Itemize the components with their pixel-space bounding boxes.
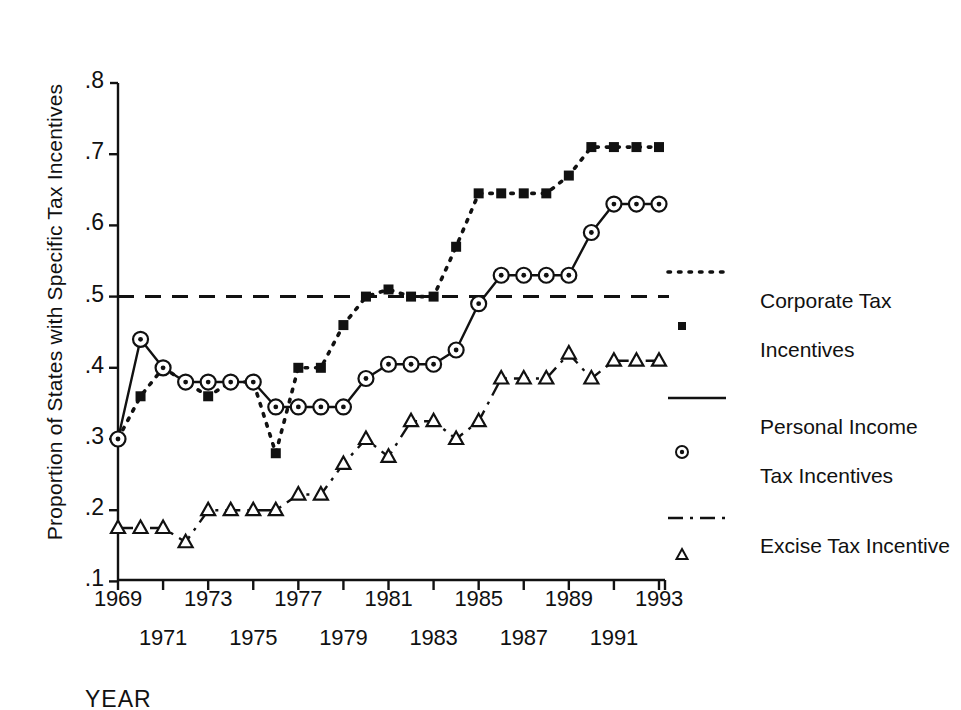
legend-label-1-line2: Incentives bbox=[760, 338, 855, 362]
data-point-circle-center bbox=[431, 362, 436, 367]
data-point-triangle bbox=[427, 414, 441, 427]
x-axis-tick-label: 1983 bbox=[394, 625, 474, 651]
y-axis-tick-label: .7 bbox=[56, 138, 104, 165]
data-point-square bbox=[631, 142, 641, 152]
data-point-square bbox=[654, 142, 664, 152]
data-point-circle-center bbox=[454, 348, 459, 353]
data-point-triangle bbox=[562, 346, 576, 359]
data-point-triangle bbox=[584, 371, 598, 384]
legend-label-3: Excise Tax Incentive bbox=[760, 534, 950, 558]
data-point-square bbox=[203, 391, 213, 401]
x-axis-tick-label: 1975 bbox=[213, 625, 293, 651]
data-point-circle-center bbox=[116, 437, 121, 442]
data-point-circle-center bbox=[296, 405, 301, 410]
data-point-circle-center bbox=[521, 273, 526, 278]
series-3 bbox=[111, 346, 666, 547]
data-point-triangle bbox=[201, 503, 215, 516]
data-point-circle-center bbox=[566, 273, 571, 278]
data-point-triangle bbox=[336, 456, 350, 469]
x-axis-tick-label: 1989 bbox=[529, 586, 609, 612]
x-axis-tick-label: 1993 bbox=[619, 586, 699, 612]
data-point-circle-center bbox=[273, 405, 278, 410]
data-point-triangle bbox=[134, 521, 148, 534]
data-point-square bbox=[271, 448, 281, 458]
x-axis-tick-label: 1977 bbox=[258, 586, 338, 612]
data-point-square bbox=[361, 292, 371, 302]
data-point-square bbox=[293, 363, 303, 373]
data-point-triangle bbox=[517, 371, 531, 384]
data-point-circle-center bbox=[183, 380, 188, 385]
data-point-square bbox=[429, 292, 439, 302]
data-point-triangle bbox=[449, 432, 463, 445]
y-axis-tick-label: .5 bbox=[56, 281, 104, 308]
data-point-circle-center bbox=[409, 362, 414, 367]
x-axis-tick-label: 1981 bbox=[349, 586, 429, 612]
x-axis-tick-label: 1969 bbox=[78, 586, 158, 612]
series-line bbox=[118, 204, 659, 439]
chart-figure: Proportion of States with Specific Tax I… bbox=[0, 0, 961, 710]
data-point-circle-center bbox=[612, 202, 617, 207]
x-axis-tick-label: 1971 bbox=[123, 625, 203, 651]
data-point-circle-center bbox=[499, 273, 504, 278]
data-point-triangle bbox=[291, 487, 305, 500]
data-point-circle-center bbox=[138, 337, 143, 342]
data-point-circle-center bbox=[161, 365, 166, 370]
data-point-square bbox=[338, 320, 348, 330]
data-point-triangle bbox=[652, 353, 666, 366]
data-point-square bbox=[384, 284, 394, 294]
data-point-circle-center bbox=[476, 301, 481, 306]
x-axis-title: YEAR bbox=[85, 686, 152, 710]
data-point-square bbox=[316, 363, 326, 373]
data-point-square bbox=[451, 242, 461, 252]
y-axis-tick-label: .8 bbox=[56, 67, 104, 94]
y-axis-tick-label: .3 bbox=[56, 423, 104, 450]
data-point-circle-center bbox=[206, 380, 211, 385]
y-axis-tick-label: .4 bbox=[56, 352, 104, 379]
data-point-triangle bbox=[629, 353, 643, 366]
data-point-triangle bbox=[382, 449, 396, 462]
data-point-square bbox=[474, 188, 484, 198]
data-point-triangle bbox=[494, 371, 508, 384]
series-2 bbox=[111, 197, 667, 447]
data-point-square bbox=[406, 292, 416, 302]
data-point-square bbox=[136, 391, 146, 401]
data-point-square bbox=[496, 188, 506, 198]
data-point-circle-center bbox=[386, 362, 391, 367]
data-point-square bbox=[609, 142, 619, 152]
data-point-circle-center bbox=[657, 202, 662, 207]
data-point-square bbox=[541, 188, 551, 198]
x-axis-tick-label: 1973 bbox=[168, 586, 248, 612]
x-axis-tick-label: 1985 bbox=[439, 586, 519, 612]
legend-label-1: Corporate Tax bbox=[760, 289, 892, 313]
data-point-triangle bbox=[359, 432, 373, 445]
y-axis-tick-label: .6 bbox=[56, 209, 104, 236]
data-point-circle-center bbox=[251, 380, 256, 385]
data-point-triangle bbox=[246, 503, 260, 516]
data-point-square bbox=[586, 142, 596, 152]
series-line bbox=[118, 147, 659, 453]
data-point-triangle bbox=[269, 503, 283, 516]
data-point-circle-center bbox=[589, 230, 594, 235]
x-axis-tick-label: 1991 bbox=[574, 625, 654, 651]
data-point-triangle bbox=[607, 353, 621, 366]
x-axis-tick-label: 1987 bbox=[484, 625, 564, 651]
data-point-circle-center bbox=[318, 405, 323, 410]
data-point-triangle bbox=[156, 521, 170, 534]
data-point-triangle bbox=[224, 503, 238, 516]
data-point-triangle bbox=[179, 535, 193, 548]
data-point-circle-center bbox=[341, 405, 346, 410]
legend-label-2: Personal Income bbox=[760, 415, 918, 439]
data-point-triangle bbox=[111, 521, 125, 534]
data-point-circle-center bbox=[544, 273, 549, 278]
data-point-circle-center bbox=[634, 202, 639, 207]
legend-label-2-line2: Tax Incentives bbox=[760, 464, 893, 488]
data-point-square bbox=[564, 171, 574, 181]
y-axis-tick-label: .2 bbox=[56, 494, 104, 521]
data-point-circle-center bbox=[364, 376, 369, 381]
data-point-circle-center bbox=[228, 380, 233, 385]
data-point-triangle bbox=[472, 414, 486, 427]
data-point-square bbox=[519, 188, 529, 198]
x-axis-tick-label: 1979 bbox=[303, 625, 383, 651]
series-1 bbox=[113, 142, 664, 458]
data-point-triangle bbox=[404, 414, 418, 427]
